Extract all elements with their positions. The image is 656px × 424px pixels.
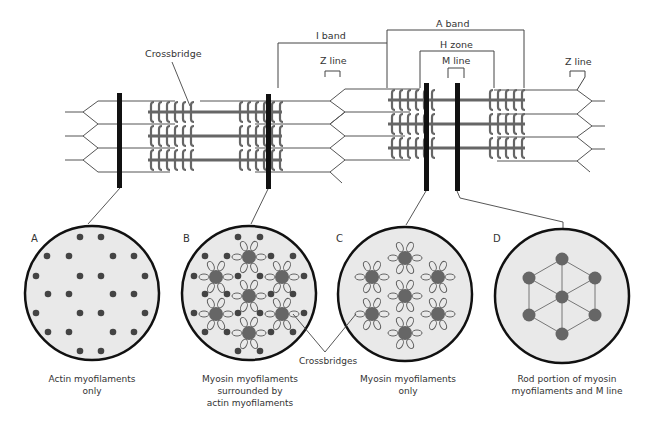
svg-text:surrounded by: surrounded by (217, 386, 283, 396)
svg-text:myofilaments and M line: myofilaments and M line (511, 386, 622, 396)
panel-a-caption: Actin myofilaments only (48, 374, 135, 396)
panel-a (25, 226, 159, 360)
svg-text:only: only (398, 386, 418, 396)
panel-d (495, 229, 629, 363)
crossbridge-label: Crossbridge (145, 48, 202, 59)
panel-d-letter: D (493, 233, 501, 244)
i-band-label: I band (316, 30, 346, 41)
svg-text:Rod portion of myosin: Rod portion of myosin (518, 374, 617, 384)
panel-c (338, 227, 472, 361)
svg-text:Actin myofilaments: Actin myofilaments (48, 374, 135, 384)
svg-text:Myosin myofilaments: Myosin myofilaments (202, 374, 298, 384)
panel-a-letter: A (31, 233, 38, 244)
svg-text:actin myofilaments: actin myofilaments (207, 398, 294, 408)
panel-b-letter: B (183, 233, 190, 244)
sarcomere-diagram: Crossbridge I band A band H zone M line … (0, 0, 656, 424)
actin-filaments (65, 89, 605, 183)
m-line-label: M line (442, 55, 471, 66)
myosin-filaments (148, 100, 525, 160)
svg-text:only: only (82, 386, 102, 396)
panel-b (182, 226, 316, 360)
svg-text:Myosin myofilaments: Myosin myofilaments (360, 374, 456, 384)
crossbridges-label: Crossbridges (299, 356, 358, 366)
crossbridge-leader (172, 62, 190, 106)
z-line-right-label: Z line (565, 56, 592, 67)
h-zone-label: H zone (440, 39, 473, 50)
section-leaders (88, 188, 563, 228)
z-line-left-label: Z line (320, 55, 347, 66)
a-band-label: A band (436, 18, 469, 29)
panel-c-letter: C (336, 233, 343, 244)
panel-c-caption: Myosin myofilaments only (360, 374, 456, 396)
panel-b-caption: Myosin myofilaments surrounded by actin … (202, 374, 298, 408)
panel-d-caption: Rod portion of myosin myofilaments and M… (511, 374, 622, 396)
